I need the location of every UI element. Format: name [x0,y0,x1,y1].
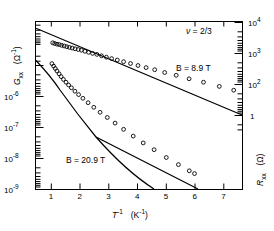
annotation-filling-factor: ν = 2/3 [186,26,212,36]
y-right-axis-label: Rxx (Ω) [255,154,267,186]
y-left-axis-label: Gxx (Ω-1) [10,46,24,85]
x-tick-2: 2 [78,192,82,201]
x-tick-6: 6 [193,192,197,201]
x-tick-1: 1 [49,192,53,201]
y-left-tick-1e-7: 10-7 [4,121,19,133]
fit-line-lower-straight [96,137,198,189]
y-right-tick-1e2: 102 [248,78,261,90]
y-left-tick-1e-9: 10-9 [4,183,19,195]
x-tick-7: 7 [221,192,225,201]
y-left-tick-1e-6: 10-6 [4,90,19,102]
fit-line-upper [36,28,242,115]
x-tick-4: 4 [135,192,139,201]
y-right-tick-1: 1 [250,109,254,121]
x-axis-label: T-1 (K-1) [112,208,148,220]
y-right-tick-1e4: 104 [248,16,261,28]
y-right-tick-1e3: 103 [248,47,261,59]
annotation-lower-field: B = 20.9 T [66,155,105,165]
annotation-upper-field: B = 8.9 T [176,63,211,73]
fit-line-lower [36,61,154,190]
y-left-minor-ticks [36,25,41,187]
x-tick-5: 5 [164,192,168,201]
y-left-major-ticks [36,66,44,190]
x-tick-3: 3 [106,192,110,201]
y-left-tick-1e-8: 10-8 [4,152,19,164]
arrhenius-plot-figure: 10-6 10-7 10-8 10-9 104 103 102 1 1 2 3 … [0,0,274,231]
